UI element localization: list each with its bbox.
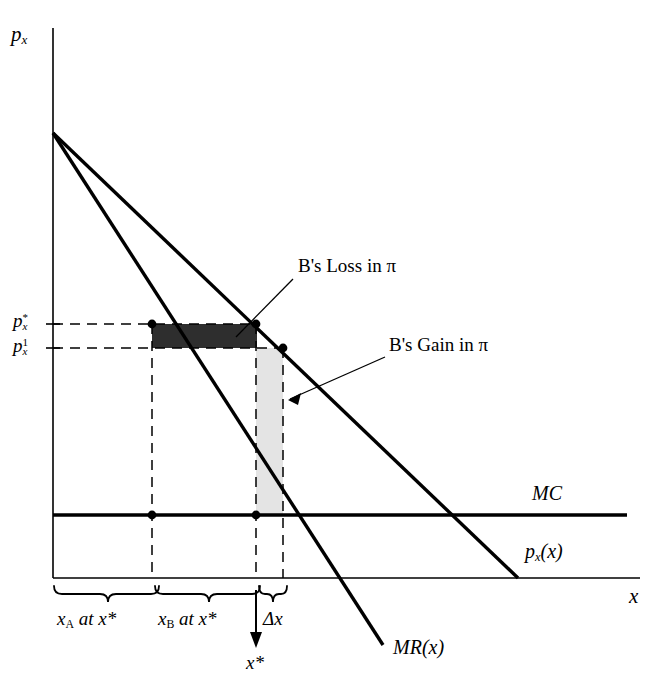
point-demand-xstar bbox=[252, 320, 261, 329]
diagram-svg bbox=[0, 0, 651, 679]
brace-xa-sub: A bbox=[65, 618, 74, 631]
brace-xb-shape bbox=[155, 586, 260, 602]
mr-curve-label: MR(x) bbox=[393, 636, 444, 659]
brace-deltax-shape bbox=[259, 586, 287, 602]
p-star-base: p bbox=[13, 310, 23, 331]
loss-annotation-text: B's Loss in π bbox=[298, 255, 396, 276]
gain-annotation-text: B's Gain in π bbox=[389, 334, 488, 355]
loss-leader-line bbox=[236, 279, 293, 337]
gain-annotation-label: B's Gain in π bbox=[389, 334, 488, 356]
y-axis-label-base: p bbox=[11, 22, 22, 46]
mc-curve-label: MC bbox=[532, 482, 562, 505]
point-demand-xa bbox=[148, 320, 157, 329]
price-tick-label-p-one: p 1 x bbox=[13, 336, 28, 356]
mc-curve-label-text: MC bbox=[532, 482, 562, 504]
brace-xa-shape bbox=[54, 586, 159, 602]
brace-deltax-text: Δx bbox=[263, 608, 283, 629]
gain-leader-line bbox=[290, 357, 385, 399]
gain-region bbox=[256, 348, 283, 515]
demand-curve-label: px(x) bbox=[525, 540, 563, 565]
brace-deltax-label: Δx bbox=[263, 608, 283, 630]
x-axis-label-text: x bbox=[629, 584, 638, 608]
brace-xb-label: xB at x* bbox=[158, 608, 217, 632]
y-axis-label: px bbox=[11, 22, 27, 48]
brace-xa-suffix: at x* bbox=[74, 608, 116, 629]
point-demand-deltax bbox=[279, 344, 288, 353]
point-mc-xa bbox=[148, 511, 157, 520]
marginal-revenue-curve bbox=[53, 133, 383, 645]
brace-xa-label: xA at x* bbox=[57, 608, 116, 632]
x-axis-label: x bbox=[629, 584, 638, 609]
brace-xb-suffix: at x* bbox=[174, 608, 216, 629]
gain-leader-arrowhead bbox=[288, 393, 301, 405]
p-one-sub: x bbox=[23, 348, 29, 356]
mr-curve-label-text: MR(x) bbox=[393, 636, 444, 658]
price-tick-label-p-star: p * x bbox=[13, 311, 28, 331]
x-star-marker-text: x* bbox=[246, 652, 264, 673]
point-mr-equals-mc bbox=[252, 511, 261, 520]
xstar-arrowhead bbox=[250, 632, 262, 648]
x-star-marker-label: x* bbox=[246, 652, 264, 674]
demand-label-suffix: (x) bbox=[541, 540, 563, 562]
loss-region bbox=[152, 324, 257, 348]
p-star-sub: x bbox=[23, 323, 29, 331]
p-one-base: p bbox=[13, 335, 23, 356]
y-axis-label-sub: x bbox=[22, 32, 28, 47]
loss-annotation-label: B's Loss in π bbox=[298, 255, 396, 277]
demand-label-base: p bbox=[525, 540, 535, 562]
figure-canvas: px x p * x p 1 x B's Loss in π B's Gain … bbox=[0, 0, 651, 679]
